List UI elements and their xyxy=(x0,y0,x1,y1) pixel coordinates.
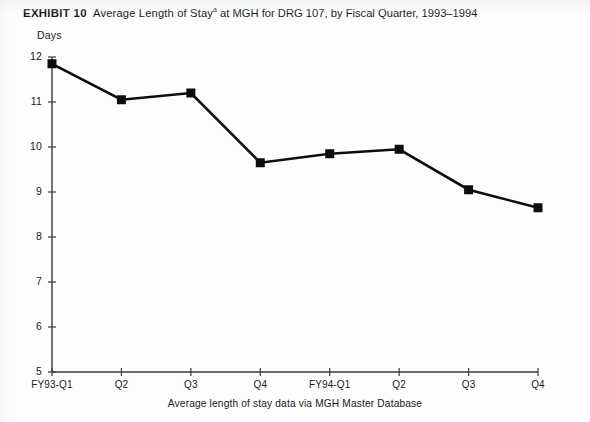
y-axis-tick-label: 5 xyxy=(18,365,42,377)
data-point-marker xyxy=(48,59,57,68)
data-point-marker xyxy=(325,149,334,158)
chart-caption: Average length of stay data via MGH Mast… xyxy=(0,398,590,409)
chart-plot-area: 56789101112 FY93-Q1Q2Q3Q4FY94-Q1Q2Q3Q4 xyxy=(0,0,590,400)
series-markers xyxy=(48,59,543,212)
data-point-marker xyxy=(117,95,126,104)
y-axis-tick-label: 7 xyxy=(18,275,42,287)
y-axis-tick-label: 8 xyxy=(18,230,42,242)
data-point-marker xyxy=(395,145,404,154)
data-point-marker xyxy=(186,89,195,98)
line-chart-svg xyxy=(0,0,590,400)
y-axis-tick-label: 6 xyxy=(18,320,42,332)
x-axis-tick-label: Q4 xyxy=(493,379,583,390)
data-point-marker xyxy=(256,158,265,167)
y-axis-tick-label: 11 xyxy=(18,95,42,107)
y-axis-tick-label: 10 xyxy=(18,140,42,152)
y-axis-tick-label: 12 xyxy=(18,50,42,62)
data-point-marker xyxy=(464,185,473,194)
y-axis-tick-label: 9 xyxy=(18,185,42,197)
data-point-marker xyxy=(534,203,543,212)
